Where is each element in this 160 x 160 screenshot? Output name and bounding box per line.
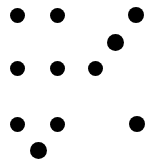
scatter-dot — [30, 142, 47, 159]
scatter-dot — [129, 116, 145, 132]
scatter-dot — [50, 117, 65, 132]
scatter-dot — [128, 7, 144, 23]
scatter-dot — [50, 61, 65, 76]
scatter-dot — [10, 8, 25, 23]
dot-pattern-canvas — [0, 0, 160, 160]
scatter-dot — [107, 34, 124, 51]
scatter-dot — [10, 117, 25, 132]
scatter-dot — [88, 61, 103, 76]
scatter-dot — [10, 61, 25, 76]
scatter-dot — [50, 8, 65, 23]
